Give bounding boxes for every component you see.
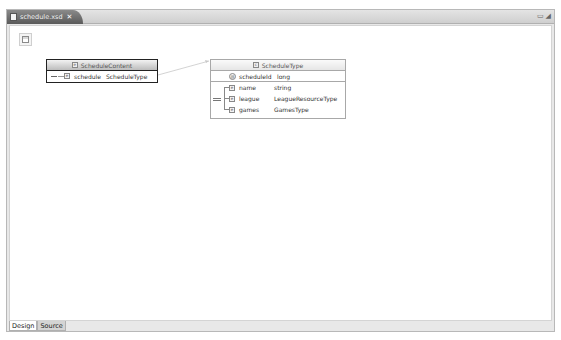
element-name: league	[239, 95, 274, 102]
element-row-league[interactable]: e league LeagueResourceType	[211, 93, 345, 104]
sequence-group: e name string e league LeagueResourceTyp…	[211, 82, 345, 118]
tab-schedule-xsd[interactable]: schedule.xsd ✕	[7, 10, 83, 24]
element-type: ScheduleType	[106, 73, 147, 80]
schedule-content-box[interactable]: e ScheduleContent e schedule ScheduleTyp…	[46, 59, 158, 83]
box-title: ScheduleType	[262, 62, 303, 69]
attribute-icon: @	[229, 73, 236, 80]
element-name: name	[239, 84, 274, 91]
element-row-games[interactable]: e games GamesType	[211, 104, 345, 115]
element-icon: e	[229, 96, 235, 102]
element-row-schedule[interactable]: e schedule ScheduleType	[47, 71, 157, 81]
element-type: LeagueResourceType	[274, 95, 337, 102]
box-header: e ScheduleContent	[47, 60, 157, 71]
element-name: schedule	[74, 73, 106, 80]
minimize-icon[interactable]: ▭	[537, 12, 544, 21]
element-icon: e	[229, 107, 235, 113]
maximize-icon[interactable]: ◢	[546, 12, 551, 21]
element-type: string	[274, 84, 291, 91]
attribute-type: long	[277, 73, 290, 80]
outline-view-button[interactable]	[19, 33, 32, 46]
tab-source[interactable]: Source	[37, 321, 65, 331]
close-icon[interactable]: ✕	[67, 13, 73, 21]
editor-page-tabs: Design Source	[9, 321, 66, 331]
element-name: games	[239, 106, 274, 113]
attribute-name: scheduleId	[239, 73, 277, 80]
element-row-name[interactable]: e name string	[211, 82, 345, 93]
schedule-type-box[interactable]: c ScheduleType @ scheduleId long e name …	[210, 59, 346, 119]
element-icon: e	[72, 62, 78, 68]
tab-design[interactable]: Design	[9, 321, 37, 331]
xsd-editor-window: schedule.xsd ✕ ▭ ◢ e ScheduleContent e s…	[6, 9, 555, 332]
attribute-row-scheduleId[interactable]: @ scheduleId long	[211, 71, 345, 82]
element-icon: e	[64, 73, 70, 79]
tab-label: schedule.xsd	[20, 10, 63, 24]
outline-icon	[22, 36, 29, 43]
element-type: GamesType	[274, 106, 309, 113]
box-header: c ScheduleType	[211, 60, 345, 71]
element-icon: e	[229, 85, 235, 91]
connector-icon	[51, 76, 57, 77]
file-icon	[10, 13, 17, 21]
complex-type-icon: c	[253, 62, 259, 68]
editor-tab-bar: schedule.xsd ✕ ▭ ◢	[7, 10, 554, 24]
window-controls: ▭ ◢	[537, 12, 551, 21]
design-canvas[interactable]: e ScheduleContent e schedule ScheduleTyp…	[9, 25, 552, 321]
box-title: ScheduleContent	[81, 62, 132, 69]
